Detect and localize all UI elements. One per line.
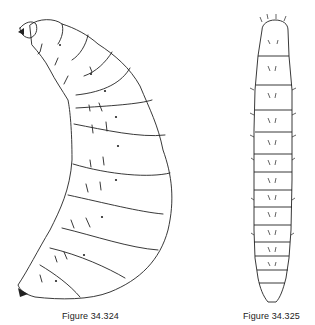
figure-caption-34-325: Figure 34.325	[243, 311, 300, 321]
figure-34-325-drawing	[250, 14, 296, 302]
figure-caption-34-324: Figure 34.324	[62, 311, 119, 321]
larva-body-outline	[18, 20, 172, 299]
figure-34-324-drawing	[0, 0, 315, 325]
